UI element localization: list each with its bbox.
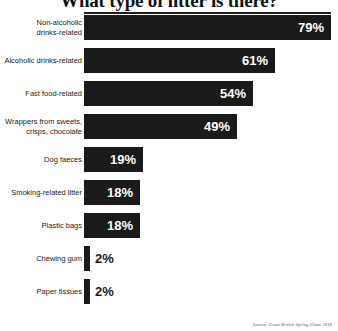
bar-category-label: Alcoholic drinks-related [4, 56, 82, 65]
bar-row: Paper tissues2% [0, 279, 338, 312]
bar-category-label-line: Wrappers from sweets, [5, 117, 82, 126]
bar-value-label: 18% [107, 185, 140, 200]
bar-row: Plastic bags18% [0, 213, 338, 246]
bar-category-label-line: Non-alcoholic [37, 18, 82, 27]
bar-category-label: Non-alcoholicdrinks-related [37, 18, 82, 36]
bar-track: 79% [84, 15, 331, 40]
bar-category-label-line: Smoking-related litter [11, 188, 82, 197]
bar [84, 279, 90, 304]
bar-category-label-line: Plastic bags [42, 221, 82, 230]
bar-category-label-line: Fast food-related [25, 89, 82, 98]
bar: 61% [84, 48, 275, 73]
bar-row: Non-alcoholicdrinks-related79% [0, 15, 338, 48]
bar [84, 246, 90, 271]
source-attribution: Source: Great British Spring Clean 2018 [253, 322, 332, 328]
bar-category-label: Chewing gum [36, 254, 82, 263]
bar-row: Alcoholic drinks-related61% [0, 48, 338, 81]
bar-track: 2% [84, 246, 331, 271]
bar-category-label: Dog faeces [44, 155, 82, 164]
bar-category-label: Wrappers from sweets,crisps, chocolate [5, 117, 82, 135]
bar: 19% [84, 147, 143, 172]
bar-row: Dog faeces19% [0, 147, 338, 180]
bar-track: 61% [84, 48, 331, 73]
bar-category-label: Plastic bags [42, 221, 82, 230]
bar-value-label: 19% [110, 152, 143, 167]
bar-category-label-line: crisps, chocolate [5, 127, 82, 136]
bar-track: 18% [84, 180, 331, 205]
bar-category-label: Smoking-related litter [11, 188, 82, 197]
bar-track: 18% [84, 213, 331, 238]
bar-row: Smoking-related litter18% [0, 180, 338, 213]
bar-row: Wrappers from sweets,crisps, chocolate49… [0, 114, 338, 147]
bar-track: 49% [84, 114, 331, 139]
bar-category-label: Fast food-related [25, 89, 82, 98]
chart-title: What type of litter is there? [0, 0, 338, 10]
bar-rows: Non-alcoholicdrinks-related79%Alcoholic … [0, 15, 338, 312]
bar-category-label-line: Chewing gum [36, 254, 82, 263]
bar-value-label: 79% [298, 20, 331, 35]
bar: 54% [84, 81, 253, 106]
title-rule-divider [84, 12, 331, 14]
bar-value-label: 18% [107, 218, 140, 233]
bar-category-label: Paper tissues [37, 287, 82, 296]
bar: 49% [84, 114, 237, 139]
bar-category-label-line: Alcoholic drinks-related [4, 56, 82, 65]
bar-row: Chewing gum2% [0, 246, 338, 279]
bar-row: Fast food-related54% [0, 81, 338, 114]
bar-track: 19% [84, 147, 331, 172]
bar-value-label: 2% [95, 279, 114, 304]
bar-chart: What type of litter is there? Non-alcoho… [0, 0, 338, 331]
bar-value-label: 2% [95, 246, 114, 271]
bar-category-label-line: Dog faeces [44, 155, 82, 164]
bar-track: 2% [84, 279, 331, 304]
bar-value-label: 49% [204, 119, 237, 134]
bar-value-label: 61% [242, 53, 275, 68]
bar-value-label: 54% [220, 86, 253, 101]
bar-track: 54% [84, 81, 331, 106]
bar: 18% [84, 213, 140, 238]
bar-category-label-line: Paper tissues [37, 287, 82, 296]
bar: 79% [84, 15, 331, 40]
bar-category-label-line: drinks-related [37, 28, 82, 37]
bar: 18% [84, 180, 140, 205]
